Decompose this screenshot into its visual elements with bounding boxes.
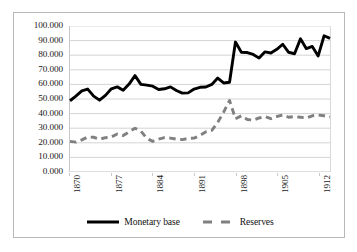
legend-label-reserves: Reserves [240,216,274,227]
y-axis-tick-label: 100.000 [34,21,63,30]
y-axis: 100.00090.00080.00070.00060.00050.00040.… [14,26,66,172]
series-layer [70,26,330,172]
series-line-monetary-base [70,36,330,101]
legend-swatch-dashed-line-icon [202,217,236,227]
x-axis-tick-label: 1912 [323,175,332,193]
y-axis-tick-label: 20.000 [38,138,63,147]
x-axis-tick-label: 1905 [281,175,290,193]
x-axis-tick-label: 1884 [156,175,165,193]
y-axis-tick-label: 80.000 [38,51,63,60]
y-axis-tick-label: 0.000 [43,167,63,176]
legend-entry-monetary-base: Monetary base [86,216,179,227]
x-axis-tick-mark [152,173,153,176]
y-axis-tick-label: 40.000 [38,109,63,118]
plot-area [69,26,331,172]
x-axis-tick-mark [277,173,278,176]
y-axis-tick-label: 30.000 [38,124,63,133]
y-axis-tick-label: 90.000 [38,36,63,45]
y-axis-tick-label: 10.000 [38,153,63,162]
x-axis-tick-label: 1877 [115,175,124,193]
x-axis-tick-mark [194,173,195,176]
x-axis-tick-mark [319,173,320,176]
legend-label-monetary-base: Monetary base [124,216,179,227]
x-axis: 1870187718841891189819051912 [69,173,331,217]
y-axis-tick-label: 50.000 [38,94,63,103]
x-axis-tick-mark [69,173,70,176]
series-line-reserves [70,100,330,142]
legend-entry-reserves: Reserves [202,216,274,227]
x-axis-tick-label: 1891 [198,175,207,193]
x-axis-tick-label: 1870 [73,175,82,193]
x-axis-tick-label: 1898 [240,175,249,193]
chart-figure: 100.00090.00080.00070.00060.00050.00040.… [13,12,345,238]
x-axis-tick-mark [236,173,237,176]
x-axis-tick-mark [111,173,112,176]
y-axis-tick-label: 60.000 [38,80,63,89]
chart-legend: Monetary base Reserves [14,216,346,227]
legend-swatch-solid-line-icon [86,217,120,227]
y-axis-tick-label: 70.000 [38,65,63,74]
